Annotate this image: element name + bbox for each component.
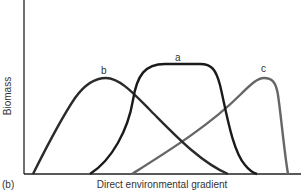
label-curve-c: c — [261, 63, 266, 74]
label-curve-a: a — [175, 52, 181, 63]
panel-label: (b) — [2, 179, 14, 190]
curve-b — [33, 78, 228, 174]
niche-diagram: b a c Biomass Direct environmental gradi… — [0, 0, 301, 191]
curve-c — [132, 78, 288, 174]
y-axis-label: Biomass — [2, 77, 13, 115]
x-axis-label: Direct environmental gradient — [97, 179, 228, 190]
label-curve-b: b — [101, 65, 107, 76]
